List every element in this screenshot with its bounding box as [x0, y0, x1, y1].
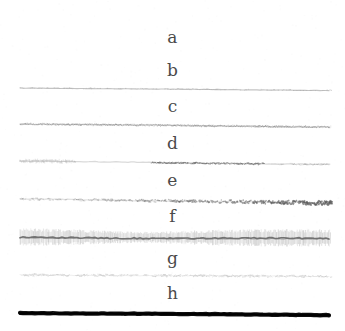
trace-label-h: h [0, 285, 345, 302]
trace-line-d [20, 150, 331, 172]
trace-line-h [20, 302, 331, 324]
trace-figure-panel: abcdefgh [0, 0, 345, 331]
trace-line-c [20, 113, 331, 135]
trace-label-a: a [0, 29, 345, 46]
trace-label-e: e [0, 172, 345, 189]
